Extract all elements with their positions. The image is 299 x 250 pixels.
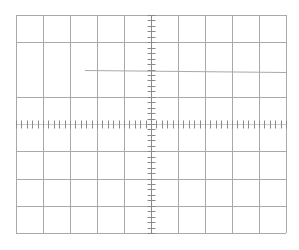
oscilloscope-graticule — [0, 0, 299, 250]
grid-horizontal-line-partial — [85, 71, 286, 73]
